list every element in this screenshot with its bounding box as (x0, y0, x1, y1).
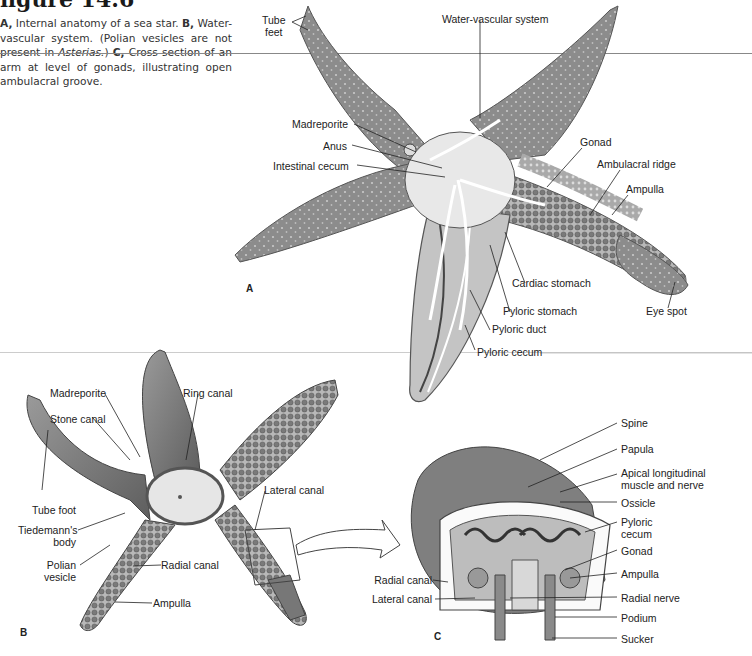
label-b-tube-foot: Tube foot (32, 504, 76, 516)
label-b-polian-vesicle: Polian vesicle (30, 559, 76, 583)
label-c-gonad: Gonad (621, 545, 653, 557)
label-b-madreporite: Madreporite (50, 387, 106, 399)
label-a-anus: Anus (323, 140, 347, 152)
label-b-ampulla: Ampulla (153, 597, 191, 609)
label-c-pyloric-cecum: Pyloric cecum (621, 516, 653, 540)
label-a-intestinal-cecum: Intestinal cecum (273, 160, 349, 172)
label-b-stone-canal: Stone canal (50, 413, 105, 425)
label-c-sucker: Sucker (621, 633, 654, 645)
label-a-ampulla: Ampulla (626, 183, 664, 195)
label-b-radial-canal: Radial canal (161, 559, 219, 571)
label-b-ring-canal: Ring canal (183, 387, 233, 399)
label-c-radial-nerve: Radial nerve (621, 592, 680, 604)
label-c-radial-canal: Radial canal (360, 574, 432, 586)
label-a-cardiac-stomach: Cardiac stomach (512, 277, 591, 289)
label-c-lateral-canal: Lateral canal (360, 593, 432, 605)
panel-letter-b: B (20, 627, 27, 638)
label-b-tiedemanns-body: Tiedemann's body (18, 524, 76, 548)
sea-star-a (235, 6, 688, 402)
label-a-pyloric-cecum: Pyloric cecum (477, 346, 542, 358)
label-c-pyloric-line1: Pyloric (621, 516, 653, 528)
label-c-podium: Podium (621, 612, 657, 624)
label-c-spine: Spine (621, 417, 648, 429)
label-c-ampulla: Ampulla (621, 568, 659, 580)
label-b-tiedemanns-line2: body (18, 536, 76, 548)
label-a-pyloric-stomach: Pyloric stomach (503, 305, 577, 317)
label-a-eye-spot: Eye spot (646, 305, 687, 317)
label-b-tiedemanns-line1: Tiedemann's (18, 524, 76, 536)
label-a-gonad: Gonad (580, 136, 612, 148)
label-a-tube-feet: Tube feet (262, 14, 286, 38)
label-c-apical-line1: Apical longitudinal (621, 467, 706, 479)
label-c-apical-longitudinal-muscle: Apical longitudinal muscle and nerve (621, 467, 706, 491)
label-a-tube-feet-line1: Tube (262, 14, 286, 26)
label-c-apical-line2: muscle and nerve (621, 479, 706, 491)
label-a-madreporite: Madreporite (292, 118, 348, 130)
panel-letter-a: A (246, 283, 253, 294)
label-b-polian-line1: Polian (30, 559, 76, 571)
label-b-lateral-canal: Lateral canal (264, 484, 324, 496)
label-a-tube-feet-line2: feet (262, 26, 286, 38)
label-c-ossicle: Ossicle (621, 497, 655, 509)
cross-section-c (411, 447, 610, 640)
label-b-polian-line2: vesicle (30, 571, 76, 583)
label-a-pyloric-duct: Pyloric duct (492, 323, 546, 335)
label-a-water-vascular-system: Water-vascular system (442, 13, 548, 25)
anatomy-illustration (0, 0, 752, 656)
label-c-pyloric-line2: cecum (621, 528, 653, 540)
panel-letter-c: C (434, 631, 441, 642)
label-a-ambulacral-ridge: Ambulacral ridge (597, 158, 676, 170)
label-c-papula: Papula (621, 443, 654, 455)
